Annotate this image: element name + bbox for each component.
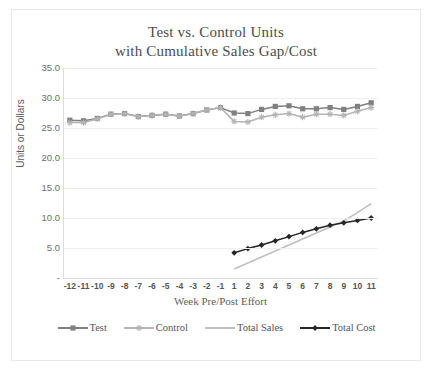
gridline (63, 248, 378, 249)
data-point-marker (286, 111, 292, 117)
chart-title-line-2: with Cumulative Sales Gap/Cost (12, 42, 420, 61)
data-point-marker (341, 112, 347, 118)
data-point-marker (273, 104, 278, 109)
y-axis-line (63, 68, 64, 279)
chart-title-line-1: Test vs. Control Units (12, 23, 420, 42)
data-point-marker (272, 112, 278, 118)
x-axis-line (63, 278, 378, 279)
gridline (63, 128, 378, 129)
data-point-marker (258, 114, 264, 120)
data-point-marker (314, 106, 319, 111)
series-line (234, 204, 371, 269)
legend-label: Test (90, 322, 107, 333)
y-tick-label: 10.0 (18, 212, 60, 223)
series-total-cost (231, 215, 374, 256)
plot-area (63, 68, 378, 278)
data-point-marker (231, 250, 237, 256)
data-point-marker (245, 111, 250, 116)
x-axis-tick-labels: -12-11-10-9-8-7-6-5-4-3-2-11234567891011 (63, 281, 378, 295)
data-point-marker (341, 220, 347, 226)
gridline (63, 218, 378, 219)
y-tick-label: 5.0 (18, 242, 60, 253)
y-tick-label: 35.0 (18, 62, 60, 73)
legend-swatch-star-icon (124, 323, 154, 333)
legend-item-total-sales[interactable]: Total Sales (205, 322, 283, 333)
data-point-marker (327, 105, 332, 110)
data-point-marker (313, 111, 319, 117)
data-point-marker (300, 230, 306, 236)
x-axis-title: Week Pre/Post Effort (63, 295, 378, 307)
legend-item-control[interactable]: Control (124, 322, 188, 333)
legend-swatch-none-icon (205, 323, 235, 333)
legend-item-test[interactable]: Test (58, 322, 107, 333)
data-point-marker (286, 103, 291, 108)
x-tick-label: 11 (360, 281, 382, 291)
data-point-marker (259, 107, 264, 112)
gridline (63, 158, 378, 159)
data-point-marker (80, 120, 86, 126)
gridline (63, 188, 378, 189)
data-point-marker (300, 106, 305, 111)
data-point-marker (300, 114, 306, 120)
gridline (63, 68, 378, 69)
legend-label: Total Sales (237, 322, 283, 333)
data-point-marker (368, 105, 374, 111)
data-point-marker (341, 107, 346, 112)
data-point-marker (94, 116, 100, 122)
data-point-marker (327, 111, 333, 117)
y-axis-title: Units or Dollars (15, 78, 26, 190)
chart-legend: TestControlTotal SalesTotal Cost (0, 322, 433, 333)
data-point-marker (231, 118, 237, 124)
legend-swatch-square-icon (58, 323, 88, 333)
data-point-marker (217, 105, 223, 111)
gridline (63, 98, 378, 99)
data-point-marker (232, 110, 237, 115)
data-point-marker (354, 108, 360, 114)
data-point-marker (286, 234, 292, 240)
legend-label: Control (156, 322, 188, 333)
legend-swatch-diamond-icon (300, 323, 330, 333)
series-test (67, 100, 374, 123)
legend-item-total-cost[interactable]: Total Cost (300, 322, 375, 333)
data-point-marker (272, 238, 278, 244)
chart-title: Test vs. Control Units with Cumulative S… (12, 23, 420, 60)
data-point-marker (313, 226, 319, 232)
chart-series-svg (63, 68, 378, 278)
y-tick-label: - (18, 272, 60, 283)
data-point-marker (245, 119, 251, 125)
series-total-sales (234, 204, 371, 269)
legend-label: Total Cost (332, 322, 375, 333)
